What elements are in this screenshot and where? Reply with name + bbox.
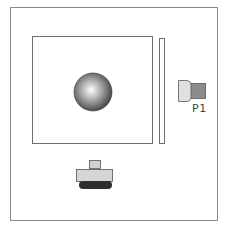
sphere xyxy=(74,73,112,111)
connector-body xyxy=(179,81,192,102)
connector-pin xyxy=(190,84,206,99)
button-stem xyxy=(90,161,101,169)
connector-p1 xyxy=(179,81,206,102)
vertical-bar xyxy=(160,39,165,144)
button-cap xyxy=(77,170,113,182)
connector-label: P1 xyxy=(192,102,207,115)
button-base xyxy=(79,181,112,189)
push-button xyxy=(77,161,113,190)
diagram-canvas xyxy=(0,0,231,231)
